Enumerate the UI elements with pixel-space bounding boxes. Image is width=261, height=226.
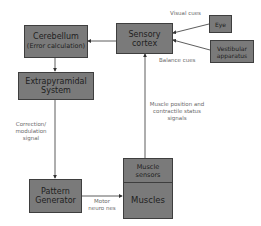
correction-line2: modulation [15, 128, 46, 134]
muscle-position-line2: contractile status [153, 108, 201, 114]
extrapyramidal-line2: System [41, 86, 71, 95]
vestibular-line1: Vestibular [217, 45, 247, 52]
extrapyramidal-line1: Extrapyramidal [25, 77, 86, 86]
motor-neurones-label: Motor neuro nes [87, 198, 117, 212]
correction-signal-label: Correction/ modulation signal [8, 121, 54, 142]
cerebellum-title: Cerebellum [33, 32, 79, 41]
muscle-position-label: Muscle position and contractile status s… [147, 101, 207, 122]
extrapyramidal-system-node: ExtrapyramidalSystem [18, 72, 94, 100]
sensory-cortex-node: Sensorycortex [116, 23, 173, 54]
vestibular-line2: apparatus [217, 52, 247, 59]
eye-label: Eye [215, 21, 226, 28]
pattern-generator-line2: Generator [35, 196, 76, 205]
balance-cues-label: Balance cues [159, 57, 195, 64]
muscle-sensors-section: Musclesensors [124, 159, 172, 183]
correction-line1: Correction/ [16, 121, 46, 127]
cerebellum-subtitle: (Error calculation) [27, 42, 85, 50]
visual-cues-label: Visual cues [170, 10, 201, 17]
muscle-position-line1: Muscle position and [150, 101, 205, 107]
vestibular-apparatus-node: Vestibularapparatus [210, 40, 254, 63]
muscle-position-line3: signals [167, 115, 186, 121]
motor-line2: neuro nes [88, 205, 115, 211]
correction-line3: signal [23, 135, 39, 141]
pattern-generator-node: PatternGenerator [29, 179, 82, 213]
muscles-section: Muscles [124, 182, 172, 218]
sensory-cortex-line1: Sensory [128, 30, 160, 39]
motor-line1: Motor [94, 198, 110, 204]
muscles-label: Muscles [131, 195, 165, 205]
muscles-node: Musclesensors Muscles [123, 158, 173, 219]
muscle-sensors-line1: Muscle [137, 163, 160, 171]
pattern-generator-line1: Pattern [41, 187, 70, 196]
eye-node: Eye [209, 15, 232, 33]
sensory-cortex-line2: cortex [132, 39, 157, 48]
cerebellum-node: Cerebellum(Error calculation) [24, 25, 88, 58]
muscle-sensors-line2: sensors [136, 171, 161, 179]
